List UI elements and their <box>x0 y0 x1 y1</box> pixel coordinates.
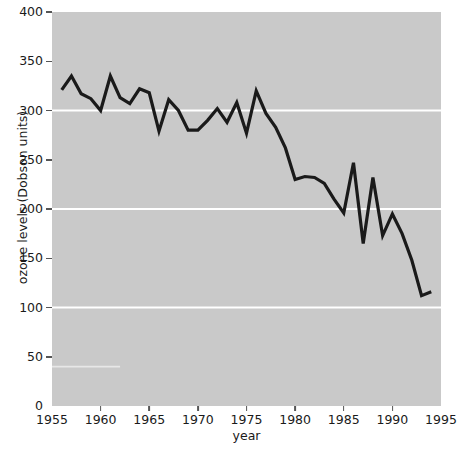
x-axis-title: year <box>52 428 441 443</box>
x-tick-label: 1955 <box>36 413 68 427</box>
x-tick-1965: 1965 <box>133 406 165 427</box>
x-tick-label: 1960 <box>85 413 117 427</box>
y-tick-mark <box>46 356 52 358</box>
x-tick-mark <box>100 406 102 411</box>
y-tick-label: 350 <box>19 54 43 68</box>
y-tick-350: 350 <box>19 54 52 68</box>
x-tick-mark <box>294 406 296 411</box>
y-tick-mark <box>46 307 52 309</box>
x-tick-label: 1980 <box>279 413 311 427</box>
x-tick-mark <box>343 406 345 411</box>
x-tick-mark <box>51 406 53 411</box>
y-tick-mark <box>46 61 52 63</box>
x-tick-1975: 1975 <box>231 406 263 427</box>
series-line-0 <box>62 76 432 296</box>
x-tick-1985: 1985 <box>328 406 360 427</box>
x-tick-label: 1985 <box>328 413 360 427</box>
x-tick-1980: 1980 <box>279 406 311 427</box>
x-tick-1995: 1995 <box>425 406 457 427</box>
x-tick-label: 1995 <box>425 413 457 427</box>
y-tick-mark <box>46 208 52 210</box>
x-tick-label: 1965 <box>133 413 165 427</box>
x-tick-1960: 1960 <box>85 406 117 427</box>
y-tick-mark <box>46 258 52 260</box>
x-tick-mark <box>440 406 442 411</box>
data-series-group <box>62 76 432 296</box>
y-tick-mark <box>46 110 52 112</box>
x-tick-label: 1975 <box>231 413 263 427</box>
gridlines-group <box>52 111 441 308</box>
x-tick-label: 1990 <box>376 413 408 427</box>
y-axis-title: ozone levels (Dobson units) <box>15 88 30 308</box>
y-tick-400: 400 <box>19 5 52 19</box>
y-tick-label: 400 <box>19 5 43 19</box>
plot-area <box>52 12 441 406</box>
x-tick-mark <box>149 406 151 411</box>
y-tick-mark <box>46 11 52 13</box>
x-tick-mark <box>246 406 248 411</box>
x-tick-1970: 1970 <box>182 406 214 427</box>
x-tick-mark <box>197 406 199 411</box>
y-tick-50: 50 <box>27 350 52 364</box>
plot-svg <box>52 12 441 406</box>
x-tick-1990: 1990 <box>376 406 408 427</box>
x-tick-mark <box>392 406 394 411</box>
y-tick-label: 50 <box>27 350 43 364</box>
x-tick-1955: 1955 <box>36 406 68 427</box>
y-tick-mark <box>46 159 52 161</box>
x-tick-label: 1970 <box>182 413 214 427</box>
